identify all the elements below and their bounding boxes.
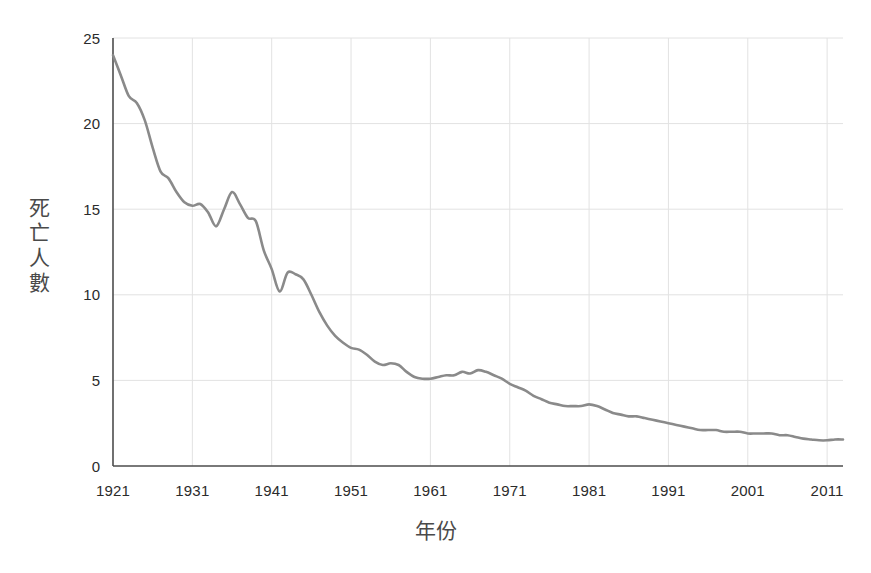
x-axis-title: 年份 (0, 514, 871, 544)
x-tick-label: 1961 (413, 482, 447, 499)
chart-grid (113, 38, 843, 466)
chart-container: 0510152025 19211931194119511961197119811… (0, 0, 871, 573)
y-tick-label: 20 (83, 115, 100, 132)
x-tick-label: 1971 (493, 482, 527, 499)
x-tick-label: 1941 (255, 482, 289, 499)
y-axis-title-char-3: 人 (22, 246, 56, 271)
y-axis-title-char-4: 數 (22, 271, 56, 296)
x-tick-labels: 1921193119411951196119711981199120012011 (96, 482, 844, 499)
x-tick-label: 1981 (572, 482, 606, 499)
y-tick-labels: 0510152025 (83, 30, 100, 475)
y-axis-title: 死 亡 人 數 (22, 196, 56, 296)
y-tick-label: 15 (83, 201, 100, 218)
y-tick-label: 0 (92, 458, 100, 475)
x-tick-label: 2011 (811, 482, 844, 499)
line-chart: 0510152025 19211931194119511961197119811… (0, 0, 871, 573)
x-tick-label: 1921 (96, 482, 130, 499)
x-tick-label: 2001 (731, 482, 765, 499)
series-line-deaths (113, 55, 843, 440)
y-axis-title-char-1: 死 (22, 196, 56, 221)
y-axis-title-char-2: 亡 (22, 221, 56, 246)
y-tick-label: 5 (92, 372, 100, 389)
chart-axes (113, 38, 843, 466)
x-tick-label: 1931 (175, 482, 209, 499)
y-tick-label: 25 (83, 30, 100, 47)
x-tick-label: 1951 (334, 482, 368, 499)
data-series-line (113, 55, 843, 440)
x-tick-label: 1991 (651, 482, 685, 499)
y-tick-label: 10 (83, 286, 100, 303)
